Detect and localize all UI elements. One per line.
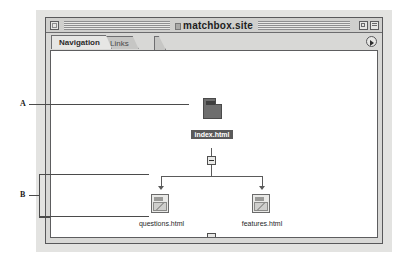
branch-collapse-toggle[interactable]: [207, 233, 216, 238]
arrow-down-icon-right: [259, 186, 265, 190]
site-map-canvas[interactable]: index.html questions.html: [50, 50, 378, 238]
page-icon[interactable]: [252, 194, 273, 216]
root-collapse-toggle[interactable]: [207, 156, 216, 165]
node-label-features-html[interactable]: features.html: [228, 219, 296, 228]
window-title: matchbox.site: [46, 18, 382, 33]
triangle-right-icon[interactable]: [366, 36, 377, 47]
callout-bracket-b: [39, 174, 50, 218]
window-titlebar[interactable]: matchbox.site: [46, 18, 382, 33]
zoom-icon[interactable]: [359, 21, 368, 30]
window-buttons: [359, 21, 379, 30]
node-index-html[interactable]: index.html: [182, 98, 242, 141]
connector-left-branch: [161, 176, 162, 186]
callout-label-a: A: [20, 99, 26, 108]
tab-nub: [154, 36, 166, 50]
node-features-html[interactable]: features.html: [228, 194, 296, 228]
tab-strip: Links Navigation: [46, 33, 382, 49]
callout-line-b-top: [39, 174, 149, 175]
arrow-down-icon-left: [158, 186, 164, 190]
connector-root-stem: [211, 148, 212, 156]
document-icon: [175, 23, 181, 30]
collapse-icon[interactable]: [370, 21, 379, 30]
screenshot-root: matchbox.site Links Navigation: [0, 0, 396, 262]
node-label-questions-html[interactable]: questions.html: [126, 219, 197, 228]
site-window: matchbox.site Links Navigation: [45, 17, 383, 244]
connector-branch-bar: [161, 176, 262, 177]
callout-line-a: [29, 104, 189, 105]
page-icon[interactable]: [151, 194, 172, 216]
node-label-index-html[interactable]: index.html: [191, 130, 232, 139]
connector-toggle-stem: [211, 165, 212, 176]
callout-label-b: B: [20, 190, 25, 199]
callout-bracket-stem: [29, 195, 39, 196]
connector-right-branch: [262, 176, 263, 186]
callout-line-b-bottom: [39, 216, 149, 217]
tab-navigation[interactable]: Navigation: [51, 35, 112, 49]
page-icon-selected[interactable]: [203, 98, 222, 119]
node-questions-html[interactable]: questions.html: [126, 194, 197, 228]
window-title-text: matchbox.site: [183, 20, 253, 31]
